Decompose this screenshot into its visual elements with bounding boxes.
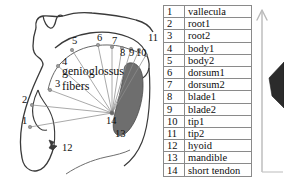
table-row: 4 body1 — [164, 42, 252, 54]
legend-name: tip1 — [185, 115, 252, 127]
table-row: 9 blade2 — [164, 103, 252, 115]
table-row: 3 root2 — [164, 30, 252, 42]
node-marker-2 — [30, 103, 33, 106]
legend-table: 1 vallecula 2 root1 3 root2 4 body1 5 bo… — [163, 5, 252, 177]
diagram-label-10: 10 — [136, 47, 147, 58]
legend-index: 7 — [164, 79, 185, 91]
diagram-label-7: 7 — [112, 35, 117, 46]
legend-name: blade2 — [185, 103, 252, 115]
clipped-dark-shape — [269, 62, 284, 108]
neck-contour — [66, 150, 130, 174]
tongue-diagram-svg: 1 2 3 4 5 6 7 8 9 10 11 12 13 14 geniogl… — [0, 0, 158, 181]
head-outline-left — [33, 28, 43, 65]
table-row: 14 short tendon — [164, 164, 252, 176]
hyoid-bone — [49, 140, 57, 150]
legend-name: mandible — [185, 152, 252, 164]
table-row: 5 body2 — [164, 54, 252, 66]
fiber-line-2 — [32, 105, 112, 113]
legend-index: 14 — [164, 164, 185, 176]
diagram-label-13: 13 — [115, 128, 126, 139]
fiber-line-1 — [30, 113, 112, 127]
table-row: 7 dorsum2 — [164, 79, 252, 91]
legend-name: dorsum2 — [185, 79, 252, 91]
legend-name: body1 — [185, 42, 252, 54]
table-row: 1 vallecula — [164, 6, 252, 18]
diagram-label-9: 9 — [129, 47, 134, 58]
node-marker-5 — [70, 48, 73, 51]
genioglossus-annotation-line1: genioglossus — [62, 64, 124, 78]
node-marker-1 — [28, 125, 31, 128]
diagram-label-11: 11 — [148, 32, 158, 43]
diagram-label-2: 2 — [22, 94, 27, 105]
legend-name: tip2 — [185, 127, 252, 139]
genioglossus-annotation-line2: fibers — [62, 79, 90, 93]
legend-index: 11 — [164, 127, 185, 139]
diagram-label-6: 6 — [97, 32, 102, 43]
legend-index: 10 — [164, 115, 185, 127]
legend-index: 9 — [164, 103, 185, 115]
node-marker-4 — [56, 64, 59, 67]
diagram-label-14: 14 — [106, 115, 117, 126]
legend-name: root1 — [185, 18, 252, 30]
figure-root: 1 2 3 4 5 6 7 8 9 10 11 12 13 14 geniogl… — [0, 0, 284, 181]
node-marker-3 — [48, 88, 51, 91]
right-annotation-panel — [252, 0, 284, 181]
legend-name: dorsum1 — [185, 66, 252, 78]
node-marker-6 — [96, 43, 99, 46]
legend-index: 8 — [164, 91, 185, 103]
legend-name: short tendon — [185, 164, 252, 176]
table-row: 11 tip2 — [164, 127, 252, 139]
legend-index: 12 — [164, 140, 185, 152]
diagram-label-1: 1 — [22, 115, 27, 126]
diagram-label-12: 12 — [62, 142, 73, 153]
table-row: 8 blade1 — [164, 91, 252, 103]
legend-name: blade1 — [185, 91, 252, 103]
table-row: 6 dorsum1 — [164, 66, 252, 78]
annotation-arrow-svg — [252, 0, 284, 181]
legend-index: 3 — [164, 30, 185, 42]
legend-index: 5 — [164, 54, 185, 66]
legend-index: 4 — [164, 42, 185, 54]
legend-index: 2 — [164, 18, 185, 30]
legend-name: hyoid — [185, 140, 252, 152]
diagram-label-8: 8 — [120, 47, 125, 58]
legend-index: 1 — [164, 6, 185, 18]
legend-index: 6 — [164, 66, 185, 78]
diagram-label-5: 5 — [72, 35, 77, 46]
legend-name: body2 — [185, 54, 252, 66]
diagram-label-3: 3 — [55, 78, 60, 89]
table-row: 10 tip1 — [164, 115, 252, 127]
table-row: 12 hyoid — [164, 140, 252, 152]
table-row: 2 root1 — [164, 18, 252, 30]
tongue-diagram-panel: 1 2 3 4 5 6 7 8 9 10 11 12 13 14 geniogl… — [0, 0, 158, 181]
legend-name: vallecula — [185, 6, 252, 18]
mandible-inner — [38, 90, 55, 146]
legend-name: root2 — [185, 30, 252, 42]
legend-index: 13 — [164, 152, 185, 164]
table-row: 13 mandible — [164, 152, 252, 164]
head-outline — [36, 13, 153, 32]
